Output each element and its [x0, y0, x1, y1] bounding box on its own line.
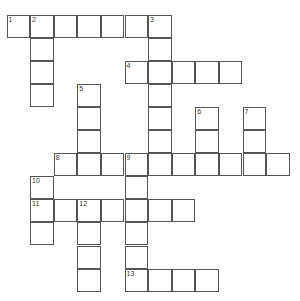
crossword-cell[interactable] [125, 246, 149, 269]
crossword-cell[interactable] [219, 61, 243, 84]
crossword-cell[interactable] [125, 176, 149, 199]
crossword-cell[interactable] [77, 15, 101, 38]
crossword-cell[interactable] [243, 130, 267, 153]
crossword-cell[interactable] [54, 15, 78, 38]
crossword-cell[interactable]: 9 [125, 153, 149, 176]
crossword-cell[interactable] [266, 153, 290, 176]
crossword-cell[interactable] [172, 269, 196, 292]
crossword-cell[interactable] [125, 199, 149, 222]
crossword-cell[interactable] [148, 84, 172, 107]
clue-number: 5 [79, 85, 83, 93]
crossword-cell[interactable] [172, 153, 196, 176]
crossword-cell[interactable] [195, 61, 219, 84]
crossword-cell[interactable] [30, 61, 54, 84]
crossword-cell[interactable]: 11 [30, 199, 54, 222]
clue-number: 7 [245, 108, 249, 116]
crossword-cell[interactable] [148, 38, 172, 61]
clue-number: 13 [127, 270, 135, 278]
crossword-cell[interactable] [54, 199, 78, 222]
crossword-cell[interactable] [30, 84, 54, 107]
crossword-cell[interactable] [101, 15, 125, 38]
crossword-cell[interactable]: 13 [125, 269, 149, 292]
clue-number: 8 [56, 154, 60, 162]
crossword-cell[interactable] [77, 246, 101, 269]
crossword-cell[interactable] [148, 107, 172, 130]
clue-number: 12 [79, 200, 87, 208]
clue-number: 2 [32, 16, 36, 24]
clue-number: 9 [127, 154, 131, 162]
crossword-cell[interactable] [148, 130, 172, 153]
crossword-cell[interactable]: 10 [30, 176, 54, 199]
crossword-cell[interactable]: 7 [243, 107, 267, 130]
crossword-cell[interactable]: 2 [30, 15, 54, 38]
clue-number: 3 [150, 16, 154, 24]
crossword-cell[interactable]: 5 [77, 84, 101, 107]
crossword-cell[interactable] [30, 222, 54, 245]
crossword-cell[interactable] [148, 61, 172, 84]
crossword-cell[interactable]: 12 [77, 199, 101, 222]
clue-number: 10 [32, 177, 40, 185]
crossword-cell[interactable]: 6 [195, 107, 219, 130]
crossword-cell[interactable]: 3 [148, 15, 172, 38]
crossword-cell[interactable] [195, 153, 219, 176]
crossword-cell[interactable] [30, 38, 54, 61]
crossword-cell[interactable]: 8 [54, 153, 78, 176]
crossword-cell[interactable] [243, 153, 267, 176]
crossword-cell[interactable] [148, 269, 172, 292]
clue-number: 4 [127, 62, 131, 70]
crossword-cell[interactable] [148, 153, 172, 176]
crossword-cell[interactable] [148, 199, 172, 222]
crossword-cell[interactable]: 4 [125, 61, 149, 84]
crossword-grid: 12345678910111213 [0, 0, 300, 301]
crossword-cell[interactable] [219, 153, 243, 176]
crossword-cell[interactable] [195, 269, 219, 292]
clue-number: 6 [197, 108, 201, 116]
crossword-cell[interactable] [77, 107, 101, 130]
crossword-cell[interactable] [195, 130, 219, 153]
crossword-cell[interactable] [77, 153, 101, 176]
crossword-cell[interactable] [77, 269, 101, 292]
crossword-cell[interactable] [101, 199, 125, 222]
clue-number: 1 [9, 16, 13, 24]
crossword-cell[interactable] [101, 153, 125, 176]
crossword-cell[interactable] [172, 199, 196, 222]
crossword-cell[interactable] [125, 222, 149, 245]
crossword-cell[interactable] [77, 222, 101, 245]
crossword-cell[interactable]: 1 [7, 15, 31, 38]
crossword-cell[interactable] [172, 61, 196, 84]
crossword-cell[interactable] [77, 130, 101, 153]
clue-number: 11 [32, 200, 39, 208]
crossword-cell[interactable] [125, 15, 149, 38]
